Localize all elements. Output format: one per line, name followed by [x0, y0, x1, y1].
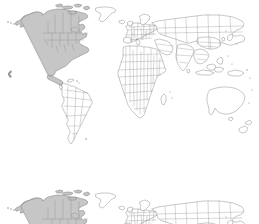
- asia-islet-3: [227, 55, 228, 56]
- asia-islet-1: [225, 30, 226, 31]
- greenland-shape: [96, 7, 116, 22]
- world-map-secondary: [0, 186, 259, 224]
- pacific-islet-2: [248, 102, 249, 103]
- philippines-shape: [217, 57, 223, 64]
- arctic-island-d: [84, 6, 90, 10]
- aleutian-islet-1-secondary: [7, 207, 9, 209]
- new-zealand-south-shape: [239, 126, 248, 133]
- greenland-shape-secondary: [96, 193, 116, 208]
- south-america-shape: [62, 83, 92, 144]
- map-figure-page: world-map: [0, 0, 259, 224]
- tasmania-shape: [229, 117, 233, 121]
- world-map-svg-primary: [0, 0, 259, 152]
- southeast-asia-shape: [194, 49, 209, 64]
- iceland-shape: [119, 20, 125, 24]
- arctic-island-b-secondary: [74, 190, 82, 193]
- aleutian-islet-2-secondary: [10, 208, 11, 209]
- north-america-group: [7, 4, 90, 85]
- australia-shape: [207, 87, 245, 115]
- aleutian-islet-4: [16, 24, 17, 25]
- africa-islet-1: [169, 91, 170, 92]
- scandinavia-shape: [140, 14, 150, 25]
- arctic-island-c-secondary: [56, 190, 63, 193]
- asia-islet-4: [231, 63, 232, 64]
- arctic-island-d-secondary: [84, 192, 90, 196]
- scandinavia-shape-secondary: [140, 200, 150, 211]
- madagascar-shape: [161, 94, 166, 105]
- world-map-primary: [0, 0, 259, 152]
- greenland-group: [96, 7, 125, 24]
- arctic-island-b: [74, 4, 82, 7]
- africa-group: [118, 46, 173, 118]
- new-zealand-north-shape: [246, 120, 252, 125]
- italy-shape: [136, 39, 140, 45]
- asia-islet-1-secondary: [225, 216, 226, 217]
- greenland-group-secondary: [96, 193, 125, 210]
- aleutian-islet-1: [7, 21, 9, 23]
- caribbean-island-1: [68, 79, 74, 82]
- aleutian-islet-3: [13, 23, 14, 24]
- indonesia-shape-1: [196, 70, 214, 75]
- north-america-group-secondary: [7, 190, 90, 224]
- central-america-shape: [60, 85, 62, 90]
- aleutian-islet-2: [10, 22, 11, 23]
- caribbean-islet-3: [78, 82, 79, 83]
- falkland-islet: [85, 138, 87, 140]
- world-map-svg-secondary: [0, 186, 259, 224]
- sri-lanka-shape: [187, 69, 190, 73]
- europe-group-secondary: [124, 200, 158, 224]
- borneo-shape: [207, 64, 216, 70]
- asia-group: [152, 15, 251, 79]
- asia-group-secondary: [152, 201, 245, 224]
- asia-islet-6: [249, 77, 250, 78]
- pacific-islet-1: [251, 89, 252, 90]
- oceania-group: [207, 87, 253, 133]
- arctic-island-c: [56, 4, 63, 7]
- arctic-island-a: [62, 6, 73, 9]
- caribbean-islet-2: [76, 80, 77, 81]
- aleutian-islet-3-secondary: [13, 209, 14, 210]
- aleutian-islet-4-secondary: [16, 210, 17, 211]
- indonesia-shape-2: [214, 67, 224, 72]
- asia-islet-2: [236, 43, 237, 44]
- mexico-shape: [47, 75, 63, 85]
- arctic-island-a-secondary: [62, 192, 73, 195]
- hawaii-shape: [8, 70, 12, 78]
- south-america-group: [60, 79, 92, 144]
- asia-islet-5: [246, 69, 247, 70]
- europe-group: [124, 14, 158, 45]
- iceland-shape-secondary: [119, 206, 125, 210]
- new-guinea-shape: [228, 70, 244, 76]
- africa-islet-2: [171, 97, 172, 98]
